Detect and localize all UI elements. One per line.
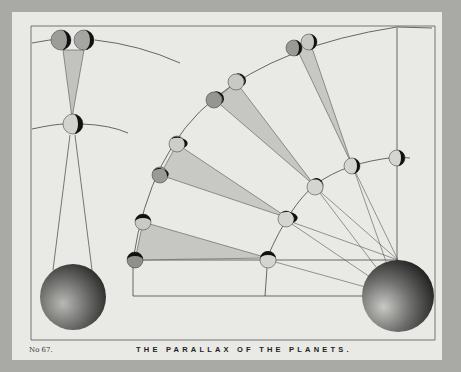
planet-icon	[74, 30, 94, 50]
planet-icon	[63, 114, 83, 134]
plate-title: THE PARALLAX OF THE PLANETS.	[136, 345, 352, 354]
planet-icon	[260, 251, 276, 268]
parallax-diagram	[0, 0, 461, 372]
planet-icon	[127, 252, 143, 268]
planet-icon	[344, 158, 360, 174]
planet-icon	[286, 40, 302, 56]
planets	[51, 30, 405, 268]
left-panel	[32, 39, 180, 133]
planet-icon	[51, 30, 71, 50]
planet-icon	[228, 73, 246, 90]
left-earth	[40, 264, 106, 330]
planet-icon	[278, 211, 298, 227]
planet-icon	[389, 150, 405, 166]
left-cone	[63, 50, 84, 118]
planet-icon	[135, 214, 151, 230]
plate-number: No 67.	[29, 346, 53, 354]
right-earth	[362, 260, 434, 332]
parallax-cones	[135, 42, 352, 260]
planet-icon	[301, 34, 317, 50]
